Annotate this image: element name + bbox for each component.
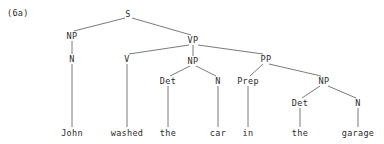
node-pp-n: N xyxy=(355,99,360,108)
leaf-word: the xyxy=(160,129,176,138)
leaf-word: garage xyxy=(342,129,375,138)
branch-vp-to-pp xyxy=(198,45,263,54)
node-object-np: NP xyxy=(188,57,199,66)
branch-object-np-to-det xyxy=(170,66,190,76)
leaf-word: car xyxy=(210,129,226,138)
branch-pp-to-np xyxy=(269,64,321,76)
branch-object-np-to-n xyxy=(196,66,216,76)
example-number-label: (6a) xyxy=(7,9,29,18)
node-v: V xyxy=(124,55,129,64)
node-subject-np: NP xyxy=(67,32,78,41)
leaf-word: washed xyxy=(111,129,144,138)
branch-vp-to-v xyxy=(129,45,189,54)
branch-pp-to-prep xyxy=(250,64,263,76)
leaf-word: the xyxy=(292,129,308,138)
node-object-n: N xyxy=(215,77,220,86)
tree-branch-lines xyxy=(0,0,384,144)
branch-pp-np-to-n xyxy=(328,86,356,98)
node-pp-det: Det xyxy=(292,99,308,108)
branch-pp-np-to-det xyxy=(302,86,320,98)
node-subject-n: N xyxy=(69,55,74,64)
node-prep: Prep xyxy=(237,77,259,86)
node-s: S xyxy=(125,10,130,19)
node-object-det: Det xyxy=(160,77,176,86)
node-pp: PP xyxy=(261,55,272,64)
branch-s-to-vp xyxy=(132,18,191,35)
syntax-tree-figure: (6a) S NP N VP V NP Det N PP Prep NP Det… xyxy=(0,0,384,144)
node-vp: VP xyxy=(188,36,199,45)
leaf-word: John xyxy=(61,129,83,138)
node-pp-np: NP xyxy=(319,77,330,86)
branch-s-to-subject-np xyxy=(74,18,125,31)
leaf-word: in xyxy=(243,129,254,138)
